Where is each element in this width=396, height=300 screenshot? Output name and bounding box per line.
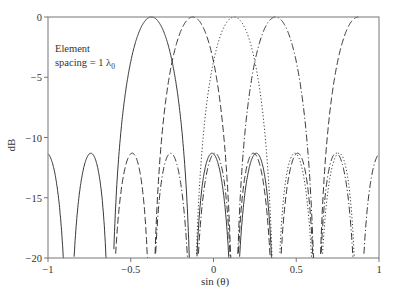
array-pattern-chart: 0−5−10−15−20 −1−0.500.51 dB sin (θ) Elem… [0,0,396,300]
beam-curve-dashed [116,17,359,258]
y-axis-ticks: 0−5−10−15−20 [26,12,48,264]
annotation-line-2: spacing = 1 λ0 [55,57,115,71]
beam-curves [48,17,379,258]
x-tick-label: −1 [42,264,53,275]
x-tick-label: 0.5 [290,264,303,275]
x-tick-label: −0.5 [121,264,140,275]
x-axis-label: sin (θ) [201,275,230,288]
y-tick-label: 0 [37,12,42,23]
y-tick-label: −15 [26,193,42,204]
x-axis-ticks: −1−0.500.51 [42,258,381,275]
beam-curve-dashdot [156,17,379,258]
x-tick-label: 1 [376,264,381,275]
plot-frame [48,17,379,258]
y-tick-label: −10 [26,133,42,144]
beam-curve-dotted [197,17,355,258]
annotation-line-1: Element [55,43,90,54]
x-tick-label: 0 [211,264,216,275]
y-tick-label: −5 [31,72,42,83]
y-axis-label: dB [5,139,17,152]
y-tick-label: −20 [26,253,42,264]
